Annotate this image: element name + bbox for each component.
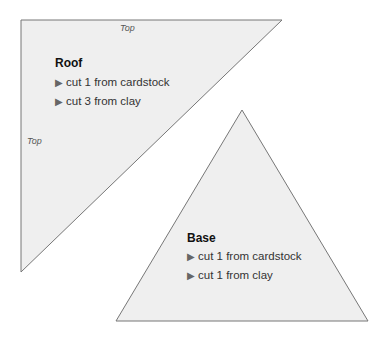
pattern-shapes bbox=[0, 0, 390, 338]
base-title: Base bbox=[187, 231, 216, 245]
bullet-arrow-icon: ▶ bbox=[55, 77, 63, 88]
bullet-arrow-icon: ▶ bbox=[187, 251, 195, 262]
roof-item: ▶cut 1 from cardstock bbox=[55, 76, 170, 88]
roof-item: ▶cut 3 from clay bbox=[55, 95, 141, 107]
bullet-arrow-icon: ▶ bbox=[187, 270, 195, 281]
bullet-arrow-icon: ▶ bbox=[55, 96, 63, 107]
base-item: ▶cut 1 from cardstock bbox=[187, 250, 302, 262]
roof-side-top-label: Top bbox=[27, 136, 42, 146]
roof-title: Roof bbox=[55, 56, 82, 70]
base-item: ▶cut 1 from clay bbox=[187, 269, 273, 281]
roof-top-label: Top bbox=[120, 23, 135, 33]
